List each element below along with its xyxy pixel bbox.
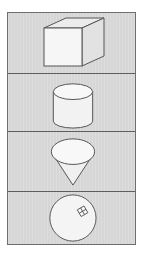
palette-item-sphere[interactable] [8, 191, 135, 244]
palette-item-cylinder[interactable] [8, 73, 135, 131]
cone-icon [8, 132, 135, 191]
palette-item-cone[interactable] [8, 131, 135, 191]
cube-icon [8, 13, 135, 73]
cylinder-icon [8, 74, 135, 131]
palette-item-cube[interactable] [8, 13, 135, 73]
shape-palette [7, 12, 136, 245]
sphere-icon [8, 192, 135, 244]
